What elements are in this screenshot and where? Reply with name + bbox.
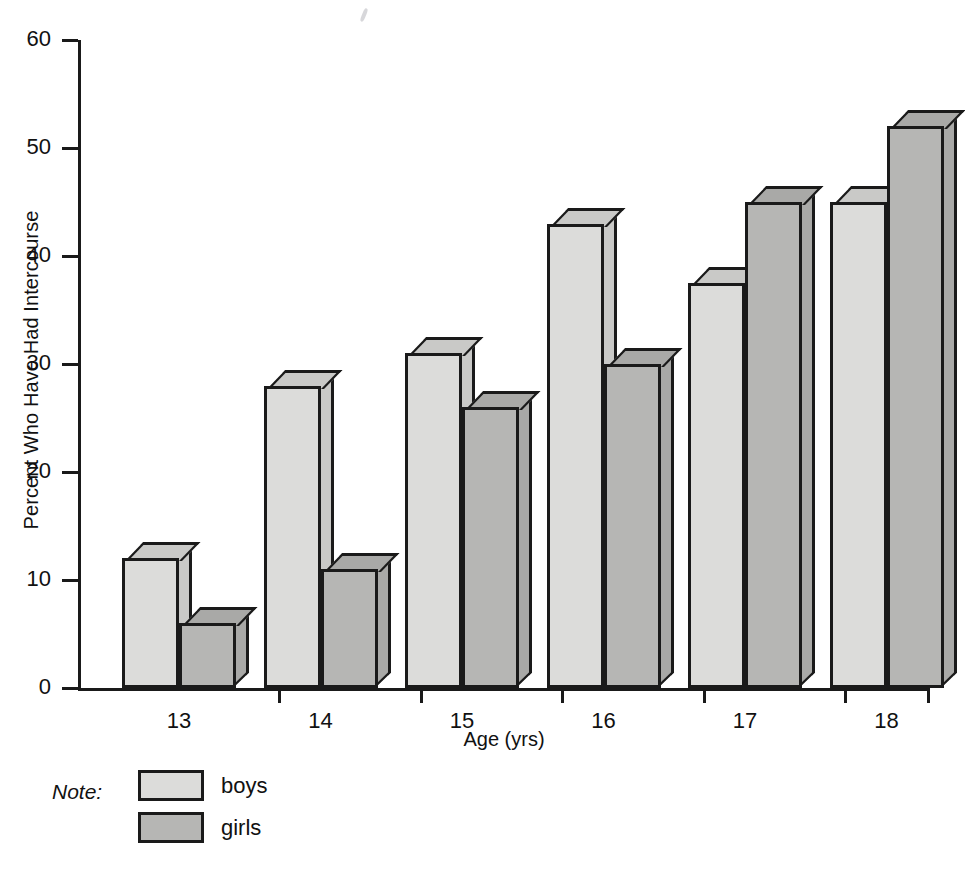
bar-boys-age-15 [405,353,462,688]
y-tick-30: 30 [62,363,78,366]
bar-girls-age-16 [604,364,661,688]
bar-girls-age-15 [462,407,519,688]
legend-label-boys: boys [221,773,267,799]
x-axis-line [78,688,930,691]
legend-swatch-boys [138,770,204,801]
bar-girls-age-17 [745,202,802,688]
legend-note-label: Note: [52,780,102,804]
x-separator-tick-4 [844,688,847,703]
y-axis-line [78,40,81,688]
y-tick-10: 10 [62,579,78,582]
bar-girls-age-14 [321,569,378,688]
y-tick-label-60: 60 [27,26,51,52]
bar-boys-age-18 [830,202,887,688]
x-axis-label: Age (yrs) [78,728,930,751]
y-tick-label-50: 50 [27,134,51,160]
scan-speck-artifact [360,8,369,22]
y-tick-0: 0 [62,687,78,690]
x-separator-tick-3 [703,688,706,703]
y-tick-50: 50 [62,147,78,150]
y-tick-label-0: 0 [39,674,51,700]
plot-area: 0102030405060 131415161718 [78,40,930,688]
bar-girls-age-13 [179,623,236,688]
legend-label-girls: girls [221,815,261,841]
x-separator-tick-2 [561,688,564,703]
bar-boys-age-13 [122,558,179,688]
y-tick-label-40: 40 [27,242,51,268]
bar-boys-age-14 [264,386,321,688]
legend-entry-boys: boys [138,770,267,801]
y-tick-20: 20 [62,471,78,474]
bar-boys-age-16 [547,224,604,688]
y-tick-60: 60 [62,39,78,42]
x-axis-end-tick [927,688,930,703]
y-tick-label-20: 20 [27,458,51,484]
x-separator-tick-0 [278,688,281,703]
x-separator-tick-1 [420,688,423,703]
legend-entry-girls: girls [138,812,261,843]
legend-swatch-girls [138,812,204,843]
y-tick-label-30: 30 [27,350,51,376]
bar-girls-age-18 [887,126,944,688]
y-tick-40: 40 [62,255,78,258]
bar-boys-age-17 [688,283,745,688]
y-tick-label-10: 10 [27,566,51,592]
